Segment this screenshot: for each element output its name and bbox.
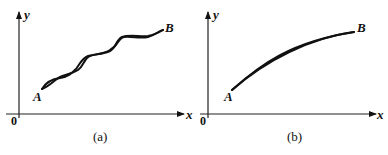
diagram: y x 0 A B (a) y x 0 A B (b) <box>0 0 388 155</box>
point-A-label-a: A <box>32 89 42 104</box>
smooth-curve-b1 <box>232 32 354 90</box>
caption-b: (b) <box>287 129 302 144</box>
origin-label-b: 0 <box>200 114 206 128</box>
point-B-label-a: B <box>164 20 174 35</box>
point-A-label-b: A <box>223 89 233 104</box>
point-B-label-b: B <box>356 20 366 35</box>
x-axis-label-b: x <box>376 107 384 122</box>
smooth-curve-b2 <box>232 32 354 90</box>
y-axis-label-b: y <box>211 7 219 22</box>
wavy-curve-a2 <box>42 30 163 89</box>
origin-label-a: 0 <box>11 114 17 128</box>
panel-b: y x 0 A B (b) <box>200 7 384 144</box>
y-axis-label-a: y <box>22 7 30 22</box>
wavy-curve-a1 <box>42 30 163 89</box>
x-axis-label-a: x <box>185 107 193 122</box>
caption-a: (a) <box>93 129 107 144</box>
panel-a: y x 0 A B (a) <box>6 7 193 144</box>
